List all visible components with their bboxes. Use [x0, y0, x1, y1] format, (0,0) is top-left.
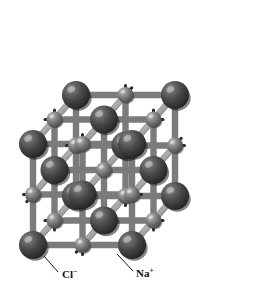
lattice-canvas: Cl− Na+ [0, 0, 264, 303]
nacl-lattice-figure: Cl− Na+ [0, 0, 264, 303]
charge-superscript: − [73, 267, 77, 276]
charge-superscript: + [149, 266, 153, 275]
